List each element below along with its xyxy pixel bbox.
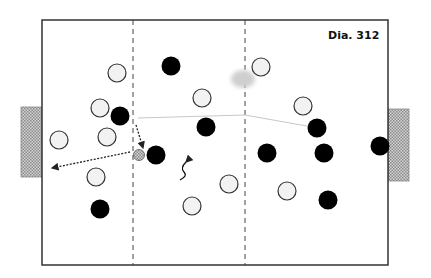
white-player: [193, 89, 211, 107]
white-player: [183, 197, 201, 215]
black-player: [371, 137, 390, 156]
white-player: [91, 99, 109, 117]
white-player: [278, 182, 296, 200]
pitch-boundary: [42, 20, 388, 265]
white-player: [252, 58, 270, 76]
ball-icon: [134, 150, 145, 161]
white-player: [98, 128, 116, 146]
diagram-label: Dia. 312: [328, 29, 379, 42]
black-player: [197, 118, 216, 137]
black-player: [308, 119, 327, 138]
white-player: [220, 175, 238, 193]
goal-right: [388, 109, 409, 181]
black-player: [258, 144, 277, 163]
white-player: [50, 131, 68, 149]
black-player: [147, 146, 166, 165]
black-player: [162, 57, 181, 76]
black-player: [315, 144, 334, 163]
black-player: [319, 191, 338, 210]
black-player: [111, 107, 130, 126]
white-player: [108, 64, 126, 82]
white-player: [294, 97, 312, 115]
white-player: [87, 168, 105, 186]
shadow-blob: [231, 70, 255, 88]
goal-left: [21, 107, 42, 177]
black-player: [91, 200, 110, 219]
